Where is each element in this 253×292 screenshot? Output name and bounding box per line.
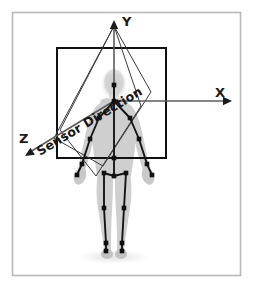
joint-hip-center [112, 174, 117, 179]
z-axis-label: Z [19, 131, 28, 146]
joint-head [112, 83, 117, 88]
joint-wrist-left [80, 162, 85, 167]
floor-shadow [78, 250, 150, 264]
joint-ankle-right [120, 241, 125, 246]
joint-wrist-right [145, 162, 150, 167]
sensor-body-coordinate-diagram: YXZ Sensor Direction [0, 0, 253, 292]
y-axis-label: Y [121, 14, 132, 29]
joint-foot-left [104, 249, 109, 254]
joint-hand-right [150, 173, 155, 178]
joint-elbow-right [137, 137, 142, 142]
joint-ankle-left [104, 241, 109, 246]
joint-foot-right [120, 249, 125, 254]
x-axis-label: X [215, 85, 225, 100]
joint-elbow-left [88, 137, 93, 142]
joint-knee-right [122, 206, 127, 211]
joint-hip-left [102, 171, 107, 176]
joint-knee-left [102, 206, 107, 211]
joint-hip-right [124, 171, 129, 176]
joint-spine-mid [112, 156, 117, 161]
joint-shoulder-right [128, 116, 133, 121]
diagram-stage: YXZ Sensor Direction [0, 0, 253, 292]
joint-hand-left [75, 173, 80, 178]
